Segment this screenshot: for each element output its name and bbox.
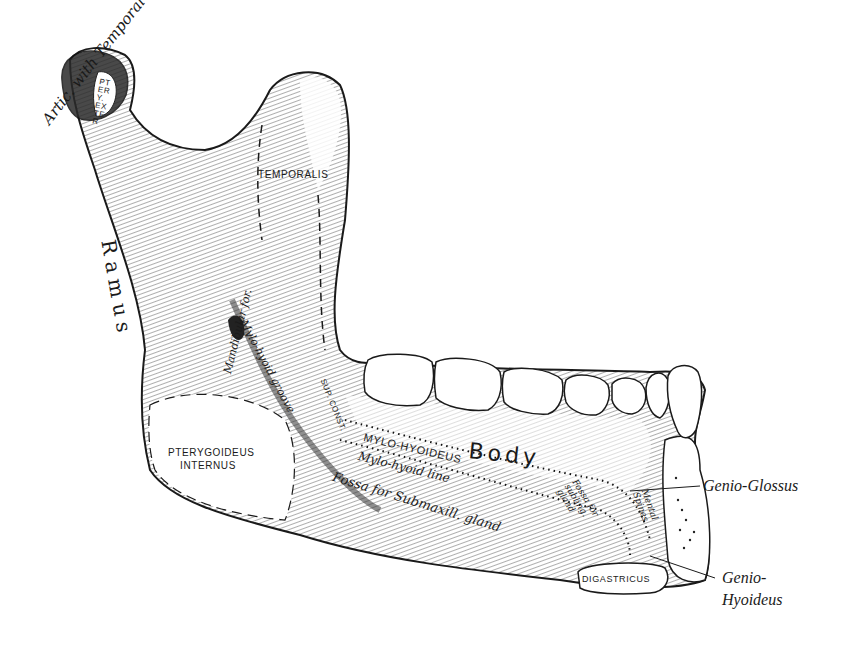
premolar-2 xyxy=(565,375,610,415)
label-genio-hyoideus-2: Hyoideus xyxy=(722,592,782,608)
molar-2 xyxy=(435,358,502,410)
label-genio-hyoideus-1: Genio- xyxy=(722,570,766,586)
symphysis xyxy=(663,436,710,582)
label-digastricus: DIGASTRICUS xyxy=(582,575,650,584)
label-genio-glossus: Genio-Glossus xyxy=(703,478,798,494)
molar-3 xyxy=(364,354,434,406)
label-pterygoideus-internus-1: PTERYGOIDEUS xyxy=(168,448,254,458)
mandible-outline xyxy=(70,48,709,587)
label-pterygoideus-internus-2: INTERNUS xyxy=(180,461,236,471)
label-temporalis: TEMPORALIS xyxy=(258,170,328,180)
premolar-1 xyxy=(612,378,646,414)
molar-1 xyxy=(503,368,563,414)
